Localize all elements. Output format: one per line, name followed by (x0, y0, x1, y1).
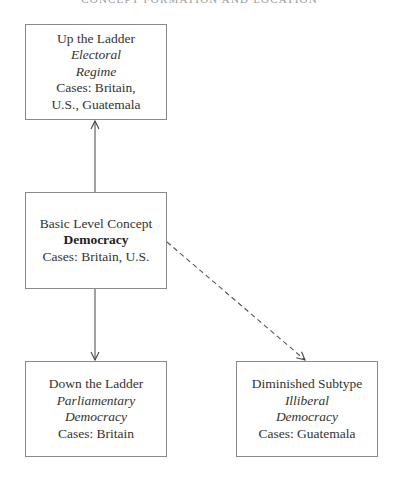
node-diminished-subtype: Diminished Subtype Illiberal Democracy C… (236, 361, 378, 457)
node-down-the-ladder: Down the Ladder Parliamentary Democracy … (25, 361, 167, 457)
node-level-label: Basic Level Concept (40, 216, 152, 233)
node-cases: Cases: Britain, (56, 80, 136, 97)
node-concept: Electoral (71, 47, 121, 64)
node-basic-level-concept: Basic Level Concept Democracy Cases: Bri… (25, 192, 167, 289)
node-up-the-ladder: Up the Ladder Electoral Regime Cases: Br… (25, 24, 167, 120)
edge-basic-to-diminished (167, 242, 305, 360)
node-cases: Cases: Guatemala (258, 426, 355, 443)
node-concept: Parliamentary (57, 393, 136, 410)
node-level-label: Up the Ladder (57, 31, 135, 48)
node-concept: Democracy (65, 409, 127, 426)
node-cases: U.S., Guatemala (51, 97, 140, 114)
node-level-label: Diminished Subtype (252, 376, 363, 393)
node-concept: Democracy (63, 232, 128, 249)
node-concept: Democracy (276, 409, 338, 426)
node-concept: Regime (76, 64, 116, 81)
node-cases: Cases: Britain (58, 426, 134, 443)
running-header: CONCEPT FORMATION AND LOCATION (0, 0, 399, 5)
node-concept: Illiberal (285, 393, 329, 410)
node-level-label: Down the Ladder (49, 376, 143, 393)
node-cases: Cases: Britain, U.S. (43, 249, 150, 266)
